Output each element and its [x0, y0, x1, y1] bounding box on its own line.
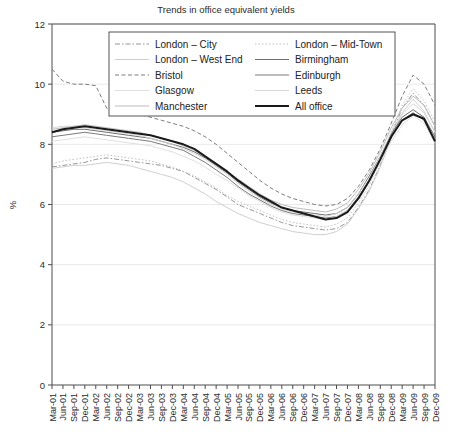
x-tick-label-Sep-06: Sep-06: [288, 393, 298, 422]
x-tick-label-Sep-07: Sep-07: [332, 393, 342, 422]
y-tick-label-6: 6: [40, 199, 45, 210]
x-tick-label-Dec-04: Dec-04: [212, 393, 222, 422]
x-tick-label-Mar-03: Mar-03: [135, 393, 145, 422]
x-tick-label-Mar-08: Mar-08: [354, 393, 364, 422]
y-axis: 024681012: [34, 19, 52, 391]
legend-label-london-west-end: London – West End: [155, 54, 243, 65]
y-tick-label-10: 10: [34, 79, 45, 90]
series-line-leeds: [52, 104, 435, 217]
x-tick-label-Jun-06: Jun-06: [277, 393, 287, 421]
x-tick-label-Jun-04: Jun-04: [190, 393, 200, 421]
x-tick-label-Dec-05: Dec-05: [255, 393, 265, 422]
x-tick-label-Dec-01: Dec-01: [80, 393, 90, 422]
chart-legend: London – CityLondon – Mid-TownLondon – W…: [109, 32, 395, 116]
x-tick-label-Dec-07: Dec-07: [343, 393, 353, 422]
legend-label-birmingham: Birmingham: [295, 54, 348, 65]
x-tick-label-Mar-06: Mar-06: [266, 393, 276, 422]
x-tick-label-Sep-09: Sep-09: [420, 393, 430, 422]
y-tick-label-2: 2: [40, 319, 45, 330]
y-tick-label-12: 12: [34, 19, 45, 30]
x-tick-label-Jun-05: Jun-05: [234, 393, 244, 421]
x-tick-label-Mar-09: Mar-09: [398, 393, 408, 422]
x-tick-label-Sep-03: Sep-03: [157, 393, 167, 422]
legend-label-bristol: Bristol: [155, 70, 183, 81]
legend-label-leeds: Leeds: [295, 85, 322, 96]
legend-label-london-mid-town: London – Mid-Town: [295, 39, 382, 50]
x-tick-label-Sep-04: Sep-04: [201, 393, 211, 422]
x-tick-label-Mar-04: Mar-04: [179, 393, 189, 422]
x-tick-label-Sep-01: Sep-01: [69, 393, 79, 422]
x-tick-label-Mar-02: Mar-02: [91, 393, 101, 422]
office-yields-line-chart: Trends in office equivalent yields 02468…: [0, 0, 452, 439]
x-tick-label-Sep-08: Sep-08: [376, 393, 386, 422]
x-tick-label-Sep-02: Sep-02: [113, 393, 123, 422]
x-tick-label-Jun-02: Jun-02: [102, 393, 112, 421]
legend-label-glasgow: Glasgow: [155, 85, 195, 96]
chart-title: Trends in office equivalent yields: [157, 4, 295, 15]
y-tick-label-8: 8: [40, 139, 45, 150]
legend-label-london-city: London – City: [155, 39, 217, 50]
legend-label-manchester: Manchester: [155, 101, 208, 112]
x-tick-label-Dec-03: Dec-03: [168, 393, 178, 422]
x-tick-label-Dec-02: Dec-02: [124, 393, 134, 422]
x-tick-label-Jun-08: Jun-08: [365, 393, 375, 421]
legend-label-edinburgh: Edinburgh: [295, 70, 341, 81]
legend-label-all-office: All office: [295, 101, 333, 112]
chart-container: Trends in office equivalent yields 02468…: [0, 0, 452, 439]
x-tick-label-Dec-08: Dec-08: [387, 393, 397, 422]
x-tick-label-Jun-09: Jun-09: [409, 393, 419, 421]
y-tick-label-0: 0: [40, 380, 45, 391]
x-tick-label-Dec-06: Dec-06: [299, 393, 309, 422]
y-tick-label-4: 4: [40, 259, 45, 270]
x-tick-label-Jun-07: Jun-07: [321, 393, 331, 421]
x-tick-label-Jun-01: Jun-01: [58, 393, 68, 421]
y-axis-title: %: [7, 200, 18, 209]
x-tick-label-Sep-05: Sep-05: [244, 393, 254, 422]
x-tick-label-Mar-05: Mar-05: [223, 393, 233, 422]
x-tick-label-Jun-03: Jun-03: [146, 393, 156, 421]
x-tick-label-Mar-07: Mar-07: [310, 393, 320, 422]
x-tick-label-Dec-09: Dec-09: [431, 393, 441, 422]
x-tick-label-Mar-01: Mar-01: [48, 393, 58, 422]
